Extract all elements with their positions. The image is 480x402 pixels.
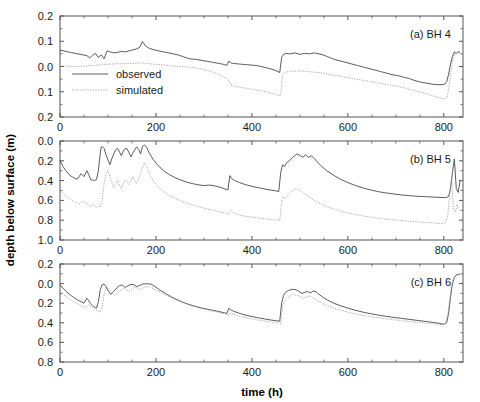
x-tick-label-1-4: 800 bbox=[435, 244, 453, 256]
y-tick-label-0-3: 0.1 bbox=[38, 86, 53, 98]
y-tick-label-0-2: 0.0 bbox=[38, 61, 53, 73]
x-tick-label-0-0: 0 bbox=[57, 121, 63, 133]
y-tick-label-0-0: 0.2 bbox=[38, 10, 53, 22]
y-tick-label-1-1: 0.2 bbox=[38, 155, 53, 167]
x-axis-title: time (h) bbox=[241, 386, 283, 398]
y-tick-label-1-5: 1.0 bbox=[38, 234, 53, 246]
x-tick-label-0-1: 200 bbox=[147, 121, 165, 133]
x-tick-label-1-2: 400 bbox=[243, 244, 261, 256]
y-tick-label-2-1: 0.0 bbox=[38, 278, 53, 290]
y-tick-label-2-0: 0.2 bbox=[38, 258, 53, 270]
legend-label-observed: observed bbox=[116, 68, 161, 80]
y-tick-label-1-0: 0.0 bbox=[38, 135, 53, 147]
panel-label-1: (b) BH 5 bbox=[410, 153, 451, 165]
x-tick-label-1-0: 0 bbox=[57, 244, 63, 256]
x-tick-label-2-1: 200 bbox=[147, 366, 165, 378]
y-tick-label-0-1: 0.1 bbox=[38, 35, 53, 47]
x-tick-label-1-1: 200 bbox=[147, 244, 165, 256]
y-tick-label-2-2: 0.2 bbox=[38, 297, 53, 309]
y-axis-title: depth below surface (m) bbox=[4, 134, 16, 266]
y-tick-label-2-4: 0.6 bbox=[38, 336, 53, 348]
y-tick-label-0-4: 0.2 bbox=[38, 111, 53, 123]
y-tick-label-2-5: 0.8 bbox=[38, 356, 53, 368]
legend-label-simulated: simulated bbox=[116, 84, 163, 96]
y-tick-label-2-3: 0.4 bbox=[38, 317, 53, 329]
y-tick-label-1-3: 0.6 bbox=[38, 194, 53, 206]
y-tick-label-1-2: 0.4 bbox=[38, 175, 53, 187]
x-tick-label-0-2: 400 bbox=[243, 121, 261, 133]
x-tick-label-0-3: 600 bbox=[339, 121, 357, 133]
x-tick-label-2-4: 800 bbox=[435, 366, 453, 378]
figure-svg: 02004006008000.20.10.00.10.2(a) BH 40200… bbox=[0, 0, 480, 402]
y-tick-label-1-4: 0.8 bbox=[38, 214, 53, 226]
x-tick-label-2-0: 0 bbox=[57, 366, 63, 378]
x-tick-label-0-4: 800 bbox=[435, 121, 453, 133]
panel-label-0: (a) BH 4 bbox=[410, 28, 451, 40]
x-tick-label-1-3: 600 bbox=[339, 244, 357, 256]
x-tick-label-2-2: 400 bbox=[243, 366, 261, 378]
figure-container: 02004006008000.20.10.00.10.2(a) BH 40200… bbox=[0, 0, 480, 402]
panel-label-2: (c) BH 6 bbox=[411, 276, 451, 288]
x-tick-label-2-3: 600 bbox=[339, 366, 357, 378]
